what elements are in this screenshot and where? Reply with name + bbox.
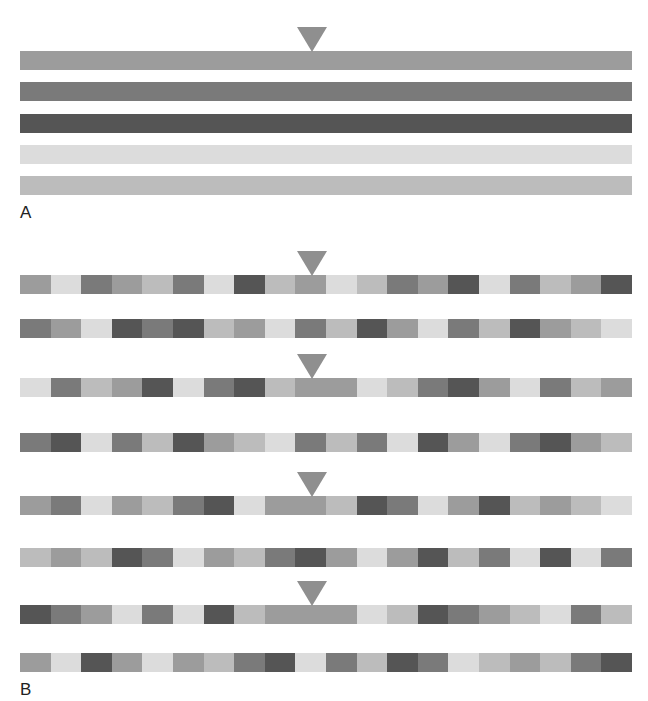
row-segment: [357, 433, 388, 452]
row-segment: [510, 433, 541, 452]
row-segment: [112, 548, 143, 567]
row-segment: [265, 548, 296, 567]
panel-a-bar: [20, 176, 632, 195]
row-segment: [234, 496, 265, 515]
row-segment: [234, 653, 265, 672]
row-segment: [142, 496, 173, 515]
row-segment: [448, 433, 479, 452]
row-segment: [418, 496, 449, 515]
row-segment: [265, 433, 296, 452]
row-segment: [540, 433, 571, 452]
marker-triangle-icon: [297, 354, 327, 379]
row-segment: [510, 378, 541, 397]
row-segment: [81, 605, 112, 624]
row-segment: [112, 378, 143, 397]
row-segment: [601, 378, 632, 397]
row-segment: [204, 548, 235, 567]
row-segment: [571, 378, 602, 397]
row-segment: [234, 433, 265, 452]
row-segment: [51, 653, 82, 672]
row-segment: [601, 433, 632, 452]
row-segment: [448, 653, 479, 672]
row-segment: [601, 548, 632, 567]
row-segment: [387, 605, 418, 624]
row-segment: [295, 275, 326, 294]
panel-a-bar: [20, 51, 632, 70]
row-segment: [571, 605, 602, 624]
row-segment: [479, 275, 510, 294]
row-segment: [387, 496, 418, 515]
row-segment: [81, 378, 112, 397]
row-segment: [173, 378, 204, 397]
row-segment: [326, 433, 357, 452]
row-segment: [510, 319, 541, 338]
row-segment: [387, 378, 418, 397]
row-segment: [173, 275, 204, 294]
row-segment: [601, 653, 632, 672]
row-segment: [540, 496, 571, 515]
row-segment: [20, 319, 51, 338]
row-segment: [51, 319, 82, 338]
row-segment: [571, 653, 602, 672]
row-segment: [295, 433, 326, 452]
row-segment: [142, 275, 173, 294]
row-segment: [418, 605, 449, 624]
row-segment: [20, 653, 51, 672]
row-segment: [418, 548, 449, 567]
row-segment: [81, 496, 112, 515]
row-segment: [204, 275, 235, 294]
row-segment: [173, 433, 204, 452]
row-segment: [81, 319, 112, 338]
row-segment: [112, 605, 143, 624]
row-segment: [571, 496, 602, 515]
row-segment: [357, 496, 388, 515]
panel-b-row: [20, 378, 632, 397]
row-segment: [265, 653, 296, 672]
row-segment: [540, 653, 571, 672]
row-segment: [387, 653, 418, 672]
row-segment: [20, 378, 51, 397]
row-segment: [51, 433, 82, 452]
row-segment: [601, 319, 632, 338]
marker-triangle-icon: [297, 251, 327, 276]
row-segment: [418, 378, 449, 397]
row-segment: [204, 319, 235, 338]
row-segment: [81, 548, 112, 567]
row-segment: [142, 433, 173, 452]
row-segment: [234, 605, 265, 624]
row-segment: [51, 378, 82, 397]
marker-triangle-icon: [297, 27, 327, 52]
row-segment: [81, 433, 112, 452]
row-segment: [387, 275, 418, 294]
row-segment: [571, 275, 602, 294]
row-segment: [357, 653, 388, 672]
row-segment: [418, 319, 449, 338]
row-segment: [295, 548, 326, 567]
row-segment: [51, 548, 82, 567]
row-segment: [448, 378, 479, 397]
row-segment: [173, 319, 204, 338]
row-segment: [265, 496, 326, 515]
row-segment: [357, 548, 388, 567]
panel-b-row: [20, 433, 632, 452]
row-segment: [571, 319, 602, 338]
row-segment: [204, 653, 235, 672]
row-segment: [234, 275, 265, 294]
row-segment: [173, 496, 204, 515]
row-segment: [357, 275, 388, 294]
row-segment: [142, 378, 173, 397]
row-segment: [51, 275, 82, 294]
row-segment: [540, 275, 571, 294]
row-segment: [20, 548, 51, 567]
panel-b-row: [20, 496, 632, 515]
row-segment: [142, 548, 173, 567]
row-segment: [601, 605, 632, 624]
row-segment: [112, 433, 143, 452]
row-segment: [479, 548, 510, 567]
panel-b-row: [20, 319, 632, 338]
row-segment: [51, 496, 82, 515]
row-segment: [112, 319, 143, 338]
row-segment: [204, 433, 235, 452]
panel-a-bar: [20, 82, 632, 101]
panel-b-row: [20, 653, 632, 672]
